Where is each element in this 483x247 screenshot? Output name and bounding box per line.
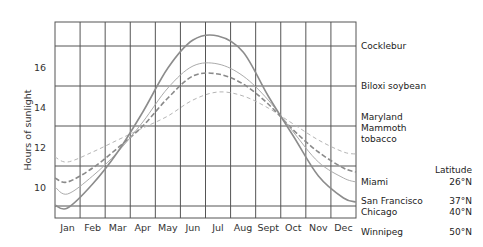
critical-photoperiod-labels: CockleburBiloxi soybeanMarylandMammothto… [361, 41, 426, 144]
x-tick-label: Jun [185, 222, 201, 233]
legend-city-label: Miami [361, 177, 388, 187]
photoperiod-chart: 10121416 JanFebMarAprMayJunJulAugSeptOct… [0, 0, 483, 247]
x-tick-label: Mar [109, 222, 127, 233]
legend-latitude-label: 26°N [449, 177, 472, 187]
x-tick-label: Feb [84, 222, 101, 233]
x-tick-label: Apr [135, 222, 152, 233]
y-tick-label: 14 [34, 102, 46, 113]
plant-label: tobacco [361, 134, 397, 144]
y-axis-ticks: 10121416 [34, 62, 46, 193]
y-tick-label: 10 [34, 182, 46, 193]
x-tick-label: Dec [334, 222, 352, 233]
plant-label: Cocklebur [361, 41, 406, 51]
legend-header-latitude: Latitude [435, 165, 473, 175]
y-axis-label: Hours of sunlight [22, 89, 33, 170]
legend-city-label: Chicago [361, 207, 398, 217]
grid [55, 22, 356, 218]
y-tick-label: 16 [34, 62, 46, 73]
plant-label: Mammoth [361, 123, 407, 133]
legend-latitude-label: 50°N [449, 227, 472, 237]
legend-latitude-label: 40°N [449, 207, 472, 217]
x-axis-ticks: JanFebMarAprMayJunJulAugSeptOctNovDec [59, 222, 352, 233]
legend-city-label: San Francisco [361, 196, 423, 206]
y-tick-label: 12 [34, 142, 46, 153]
series-legend: Miami26°NSan Francisco37°NChicago40°NWin… [361, 177, 472, 237]
x-tick-label: Oct [285, 222, 302, 233]
plant-label: Maryland [361, 112, 403, 122]
legend-city-label: Winnipeg [361, 227, 403, 237]
x-tick-label: Aug [234, 222, 253, 233]
x-tick-label: Nov [309, 222, 328, 233]
x-tick-label: Jan [59, 222, 75, 233]
x-tick-label: Jul [211, 222, 223, 233]
x-tick-label: May [158, 222, 178, 233]
plant-label: Biloxi soybean [361, 81, 426, 91]
x-tick-label: Sept [257, 222, 279, 233]
legend-latitude-label: 37°N [449, 196, 472, 206]
